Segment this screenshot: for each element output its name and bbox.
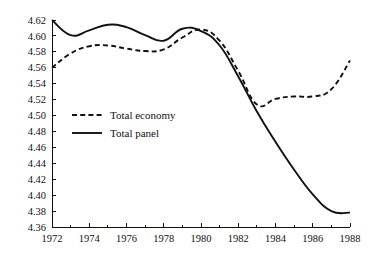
y-tick-label: 4.38 bbox=[28, 206, 46, 217]
x-tick-label: 1978 bbox=[153, 233, 174, 244]
x-tick-label: 1980 bbox=[191, 233, 212, 244]
series-group bbox=[52, 20, 350, 213]
series-line-total-panel bbox=[52, 20, 350, 213]
chart-legend: Total economyTotal panel bbox=[72, 109, 176, 139]
y-tick-label: 4.52 bbox=[28, 94, 46, 105]
y-tick-label: 4.42 bbox=[28, 174, 46, 185]
y-tick-label: 4.58 bbox=[28, 46, 46, 57]
series-line-total-economy bbox=[52, 29, 350, 106]
y-tick-label: 4.48 bbox=[28, 126, 46, 137]
x-tick-label: 1982 bbox=[228, 233, 249, 244]
legend-label-total-economy: Total economy bbox=[110, 109, 176, 121]
y-tick-label: 4.60 bbox=[28, 31, 46, 42]
y-tick-label: 4.36 bbox=[28, 222, 46, 233]
y-tick-label: 4.56 bbox=[28, 62, 46, 73]
line-chart: 4.364.384.404.424.444.464.484.504.524.54… bbox=[0, 0, 372, 262]
chart-container: 4.364.384.404.424.444.464.484.504.524.54… bbox=[0, 0, 372, 262]
axes-group bbox=[52, 20, 350, 227]
y-tick-label: 4.46 bbox=[28, 142, 46, 153]
y-tick-label: 4.40 bbox=[28, 190, 46, 201]
y-tick-label: 4.44 bbox=[28, 158, 47, 169]
x-tick-label: 1986 bbox=[302, 233, 323, 244]
y-tick-label: 4.62 bbox=[28, 15, 46, 26]
x-tick-label: 1988 bbox=[340, 233, 361, 244]
x-tick-label: 1972 bbox=[42, 233, 63, 244]
x-tick-label: 1976 bbox=[116, 233, 137, 244]
x-tick-label: 1984 bbox=[265, 233, 287, 244]
legend-label-total-panel: Total panel bbox=[110, 127, 159, 139]
x-tick-label: 1974 bbox=[79, 233, 101, 244]
y-tick-label: 4.50 bbox=[28, 110, 46, 121]
y-tick-label: 4.54 bbox=[28, 78, 47, 89]
x-axis-ticks: 197219741976197819801982198419861988 bbox=[42, 223, 361, 244]
